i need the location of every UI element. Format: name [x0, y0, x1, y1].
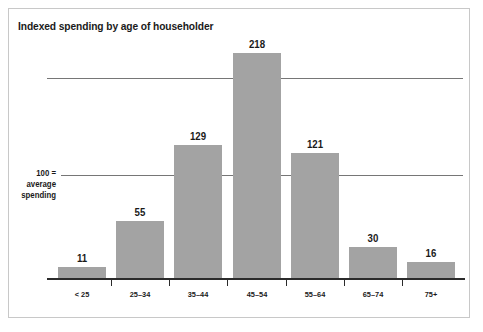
x-axis-label: 65–74 [351, 290, 395, 299]
baseline-annotation-line-1: 100 = [4, 168, 56, 179]
bar-value: 30 [351, 232, 395, 244]
baseline-annotation: 100 = average spending [4, 168, 56, 201]
x-axis-label: 45–54 [235, 290, 279, 299]
x-axis-label: 55–64 [293, 290, 337, 299]
bar-75-plus [407, 262, 455, 278]
bar-value: 16 [409, 247, 453, 259]
x-axis-tick [169, 280, 170, 286]
bar-25-34 [116, 221, 164, 278]
bar-35-44 [174, 145, 222, 278]
bar-65-74 [349, 247, 397, 278]
x-axis-tick [111, 280, 112, 286]
x-axis-label: 35–44 [176, 290, 220, 299]
bar-value: 129 [176, 130, 220, 142]
x-axis-tick [402, 280, 403, 286]
chart-figure: Indexed spending by age of householder 1… [0, 0, 483, 332]
bar-value: 55 [118, 206, 162, 218]
x-axis-tick [227, 280, 228, 286]
plot-area: 11 55 129 218 121 30 16 < 25 25–34 35–44… [0, 0, 483, 332]
bar-value: 11 [60, 252, 104, 264]
baseline-annotation-line-3: spending [4, 190, 56, 201]
x-axis-label: 25–34 [118, 290, 162, 299]
baseline-annotation-line-2: average [4, 179, 56, 190]
x-axis-tick [286, 280, 287, 286]
bar-value: 121 [293, 138, 337, 150]
bar-55-64 [291, 153, 339, 278]
bar-lt-25 [58, 267, 106, 278]
x-axis-label: < 25 [60, 290, 104, 299]
x-axis-tick [344, 280, 345, 286]
bar-45-54 [233, 53, 281, 278]
x-axis-label: 75+ [409, 290, 453, 299]
bar-value: 218 [235, 38, 279, 50]
